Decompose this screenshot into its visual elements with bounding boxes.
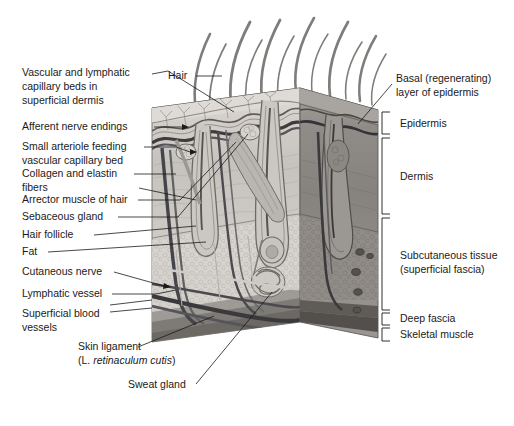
label-fat: Fat [22,245,37,257]
label-vascular-lymphatic-l2: capillary beds in [22,80,97,92]
label-vascular-lymphatic-l3: superficial dermis [22,94,104,106]
label-hair: Hair [168,69,188,81]
label-skin-ligament: Skin ligament [78,340,141,352]
bracket-dermis [382,138,390,214]
label-dermis: Dermis [400,170,433,182]
skin-diagram-svg: Hair Vascular and lymphatic capillary be… [0,0,514,426]
label-superficial-blood-l1: Superficial blood [22,307,100,319]
latin-suffix: ) [172,354,176,366]
latin-prefix: (L. [78,354,93,366]
label-deep-fascia: Deep fascia [400,312,456,324]
label-epidermis: Epidermis [400,117,447,129]
label-vascular-lymphatic-l1: Vascular and lymphatic [22,66,130,78]
label-hair-follicle: Hair follicle [22,228,74,240]
layer-brackets [382,112,390,341]
label-skeletal-muscle: Skeletal muscle [400,328,474,340]
label-small-arteriole-l1: Small arteriole feeding [22,140,127,152]
label-arrector-muscle: Arrector muscle of hair [22,193,128,205]
label-afferent-nerve-endings: Afferent nerve endings [22,120,127,132]
label-subcutaneous-l1: Subcutaneous tissue [400,249,498,261]
label-subcutaneous-l2: (superficial fascia) [400,263,485,275]
bracket-skeletal-muscle [382,328,390,341]
bracket-epidermis [382,112,390,134]
bracket-subcutaneous [382,218,390,310]
label-sweat-gland: Sweat gland [128,378,186,390]
label-superficial-blood-l2: vessels [22,321,57,333]
skin-anatomy-figure: Hair Vascular and lymphatic capillary be… [0,0,514,426]
label-skin-ligament-latin: (L. retinaculum cutis) [78,354,175,366]
label-basal-layer-l1: Basal (regenerating) [396,72,491,84]
label-small-arteriole-l2: vascular capillary bed [22,154,123,166]
label-sebaceous-gland: Sebaceous gland [22,210,103,222]
label-lymphatic-vessel: Lymphatic vessel [22,287,102,299]
label-collagen-elastin-l1: Collagen and elastin [22,167,117,179]
bracket-deep-fascia [382,313,390,325]
label-collagen-elastin-l2: fibers [22,181,48,193]
skin-right-face [300,88,378,338]
sebaceous-gland-2 [240,124,260,140]
label-cutaneous-nerve: Cutaneous nerve [22,265,102,277]
label-basal-layer-l2: layer of epidermis [396,86,479,98]
latin-italic: retinaculum cutis [93,354,173,366]
skin-front-face [152,88,300,342]
